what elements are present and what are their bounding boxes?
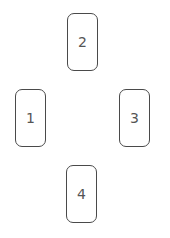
card-position-3: 3 (119, 89, 150, 147)
card-position-4: 4 (66, 165, 97, 223)
card-number: 3 (130, 111, 139, 125)
card-position-1: 1 (15, 89, 46, 147)
card-position-2: 2 (67, 13, 98, 71)
card-number: 4 (77, 187, 86, 201)
card-number: 1 (26, 111, 35, 125)
card-number: 2 (78, 35, 87, 49)
